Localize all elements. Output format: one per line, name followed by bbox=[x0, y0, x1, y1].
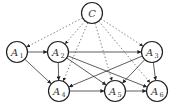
node-label: A bbox=[10, 47, 18, 58]
node-label: A bbox=[108, 86, 116, 97]
node-subscript: 3 bbox=[155, 52, 159, 60]
edge-c-to-a2 bbox=[65, 21, 85, 44]
node-a5: A5 bbox=[105, 81, 126, 102]
edge-a2-to-a5 bbox=[67, 58, 106, 85]
edge-a3-to-a6 bbox=[153, 62, 155, 80]
causal-graph: CA1A2A3A4A5A6 bbox=[0, 0, 175, 110]
node-subscript: 5 bbox=[118, 91, 122, 99]
node-label: A bbox=[145, 47, 153, 58]
edge-c-to-a3 bbox=[101, 19, 143, 46]
node-a6: A6 bbox=[147, 81, 168, 102]
node-a2: A2 bbox=[48, 42, 69, 63]
node-a4: A4 bbox=[49, 81, 70, 102]
node-label: A bbox=[150, 86, 158, 97]
node-label: C bbox=[88, 8, 96, 19]
solid-edges bbox=[25, 52, 156, 91]
node-a1: A1 bbox=[7, 42, 28, 63]
node-subscript: 6 bbox=[160, 91, 164, 99]
node-a3: A3 bbox=[142, 42, 163, 63]
node-subscript: 2 bbox=[61, 52, 65, 60]
node-subscript: 1 bbox=[20, 52, 24, 60]
node-c: C bbox=[82, 3, 103, 24]
edge-a1-to-a4 bbox=[25, 59, 51, 83]
node-label: A bbox=[51, 47, 59, 58]
node-subscript: 4 bbox=[62, 91, 66, 99]
node-label: A bbox=[52, 86, 60, 97]
